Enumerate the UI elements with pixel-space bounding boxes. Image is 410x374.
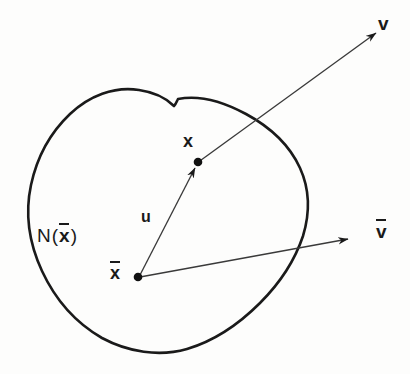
point-x-dot xyxy=(194,158,203,167)
point-x-bar-dot xyxy=(134,273,143,282)
vector-v-bar-label: v xyxy=(376,222,387,241)
vector-v-arrow xyxy=(197,33,376,163)
neighborhood-label-n: N xyxy=(37,226,51,245)
vector-vbar-arrow xyxy=(140,239,348,277)
neighborhood-label: N ( x ) xyxy=(37,226,77,245)
point-x-bar-label-variable: x xyxy=(110,264,120,282)
point-x-bar-label: x xyxy=(110,264,120,282)
neighborhood-label-open-paren: ( xyxy=(52,226,58,245)
vector-u-label: u xyxy=(141,209,151,225)
vector-v-label: v xyxy=(378,14,389,33)
vector-v-bar-label-variable: v xyxy=(376,222,387,241)
neighborhood-label-variable: x xyxy=(59,226,70,245)
figure-canvas xyxy=(0,0,410,374)
neighborhood-label-close-paren: ) xyxy=(71,226,77,245)
point-x-label: x xyxy=(183,132,193,150)
math-figure: N ( x ) x x u v v xyxy=(0,0,410,374)
